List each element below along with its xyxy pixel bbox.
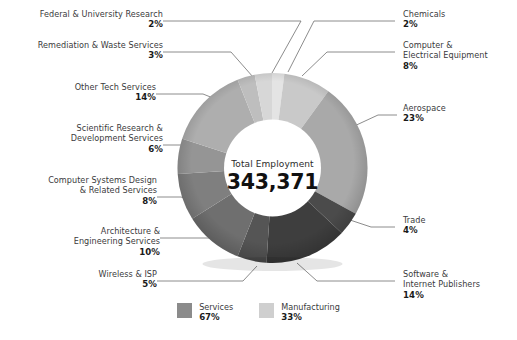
label-federal-university-research-name: Federal & University Research <box>0 9 163 19</box>
donut-chart: Total Employment 343,371 <box>176 72 369 279</box>
label-chemicals: Chemicals 2% <box>403 9 445 30</box>
label-remediation-waste-services: Remediation & Waste Services 3% <box>0 40 163 61</box>
legend-label-manufacturing: Manufacturing <box>281 302 340 312</box>
label-architecture-pct: 10% <box>0 247 160 257</box>
label-remediation-waste-services-pct: 3% <box>0 50 163 60</box>
legend-swatch-manufacturing <box>259 303 274 318</box>
label-computer-systems-design-related-services: Computer Systems Design & Related Servic… <box>0 175 157 206</box>
label-other-tech-services: Other Tech Services 14% <box>0 82 156 103</box>
label-aerospace-name: Aerospace <box>403 103 446 113</box>
label-wireless-isp-name: Wireless & ISP <box>0 269 157 279</box>
label-architecture-line1: Architecture & <box>0 226 160 236</box>
label-architecture-line2: Engineering Services <box>0 236 160 246</box>
label-scientific-research-line2: Development Services <box>0 133 163 143</box>
legend-value-manufacturing: 33% <box>281 312 340 322</box>
label-software-pct: 14% <box>403 290 480 300</box>
center-total: Total Employment 343,371 <box>213 158 333 193</box>
legend-label-services: Services <box>199 302 233 312</box>
label-trade: Trade 4% <box>403 215 425 236</box>
leader-federal-university-research <box>163 21 301 73</box>
label-trade-pct: 4% <box>403 225 425 235</box>
label-computer-systems-line2: & Related Services <box>0 185 157 195</box>
label-computer-electrical-equipment: Computer & Electrical Equipment 8% <box>403 40 488 71</box>
label-wireless-isp: Wireless & ISP 5% <box>0 269 157 290</box>
label-computer-systems-line1: Computer Systems Design <box>0 175 157 185</box>
label-other-tech-services-name: Other Tech Services <box>0 82 156 92</box>
label-scientific-research-development-services: Scientific Research & Development Servic… <box>0 123 163 154</box>
label-computer-systems-pct: 8% <box>0 196 157 206</box>
legend-item-services: Services 67% <box>177 302 233 323</box>
label-computer-electrical-pct: 8% <box>403 61 488 71</box>
label-software-line1: Software & <box>403 269 480 279</box>
label-software-internet-publishers: Software & Internet Publishers 14% <box>403 269 480 300</box>
center-total-value: 343,371 <box>213 169 333 193</box>
label-scientific-research-pct: 6% <box>0 144 163 154</box>
label-computer-electrical-line1: Computer & <box>403 40 488 50</box>
label-chemicals-pct: 2% <box>403 19 445 29</box>
center-total-label: Total Employment <box>213 158 333 168</box>
label-federal-university-research: Federal & University Research 2% <box>0 9 163 30</box>
label-scientific-research-line1: Scientific Research & <box>0 123 163 133</box>
label-remediation-waste-services-name: Remediation & Waste Services <box>0 40 163 50</box>
chart-legend: Services 67% Manufacturing 33% <box>0 302 517 323</box>
chart-canvas: Total Employment 343,371 Federal & Unive… <box>0 0 517 340</box>
label-chemicals-name: Chemicals <box>403 9 445 19</box>
label-computer-electrical-line2: Electrical Equipment <box>403 50 488 60</box>
leader-chemicals <box>288 21 395 72</box>
label-other-tech-services-pct: 14% <box>0 92 156 102</box>
legend-value-services: 67% <box>199 312 233 322</box>
legend-swatch-services <box>177 303 192 318</box>
label-wireless-isp-pct: 5% <box>0 279 157 289</box>
label-software-line2: Internet Publishers <box>403 279 480 289</box>
label-trade-name: Trade <box>403 215 425 225</box>
label-architecture-engineering-services: Architecture & Engineering Services 10% <box>0 226 160 257</box>
legend-item-manufacturing: Manufacturing 33% <box>259 302 340 323</box>
label-aerospace: Aerospace 23% <box>403 103 446 124</box>
label-aerospace-pct: 23% <box>403 113 446 123</box>
label-federal-university-research-pct: 2% <box>0 19 163 29</box>
